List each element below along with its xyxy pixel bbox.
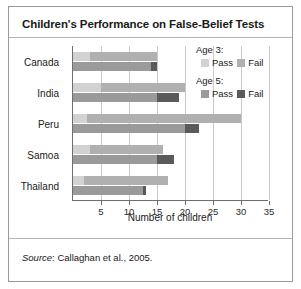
bar-age3-samoa: [73, 145, 163, 154]
legend-heading: Age 5:: [196, 75, 288, 86]
category-label-india: India: [37, 87, 59, 98]
legend-group-age3: Age 3:PassFail: [196, 44, 288, 68]
bar-segment: [73, 155, 157, 164]
bar-segment: [73, 62, 151, 71]
bar-age3-india: [73, 83, 185, 92]
legend-swatch-icon: [201, 59, 209, 67]
bar-segment: [73, 145, 90, 154]
legend-label: Pass: [212, 88, 233, 99]
bar-age5-thailand: [73, 186, 146, 195]
bar-segment: [73, 114, 87, 123]
x-axis-tick: [241, 201, 242, 205]
legend-label: Pass: [212, 57, 233, 68]
x-axis-title: Number of children: [72, 212, 268, 223]
category-label-samoa: Samoa: [27, 149, 59, 160]
x-axis-tick: [213, 201, 214, 205]
x-axis-tick: [185, 201, 186, 205]
legend-swatch-icon: [201, 90, 209, 98]
x-axis-tick: [129, 201, 130, 205]
legend-swatch-icon: [237, 59, 245, 67]
bar-segment: [73, 176, 84, 185]
legend-row: PassFail: [196, 88, 288, 99]
bar-age3-canada: [73, 52, 157, 61]
bar-segment: [157, 155, 174, 164]
category-label-canada: Canada: [24, 56, 59, 67]
x-axis-tick: [157, 201, 158, 205]
x-axis-tick: [269, 201, 270, 205]
legend-swatch-icon: [237, 90, 245, 98]
legend-label: Fail: [248, 57, 263, 68]
gridline: [185, 46, 186, 200]
legend-group-age5: Age 5:PassFail: [196, 75, 288, 99]
bar-segment: [90, 52, 157, 61]
x-axis-tick: [101, 201, 102, 205]
source-label: Source: [22, 252, 52, 263]
bar-age5-peru: [73, 124, 199, 133]
page-title: Children's Performance on False-Belief T…: [22, 18, 264, 30]
legend-item-pass: Pass: [201, 88, 233, 99]
title-divider: [9, 37, 292, 38]
chart-legend: Age 3:PassFailAge 5:PassFail: [196, 44, 288, 106]
bar-segment: [73, 124, 185, 133]
category-label-thailand: Thailand: [21, 180, 59, 191]
bar-segment: [73, 186, 143, 195]
source-caption: Source: Callaghan et al., 2005.: [22, 252, 152, 263]
legend-item-pass: Pass: [201, 57, 233, 68]
category-axis-labels: CanadaIndiaPeruSamoaThailand: [0, 46, 67, 201]
bar-segment: [157, 93, 179, 102]
bar-segment: [185, 124, 199, 133]
legend-item-fail: Fail: [237, 88, 263, 99]
source-divider: [9, 238, 292, 239]
figure-container: Children's Performance on False-Belief T…: [0, 0, 301, 289]
bar-segment: [84, 176, 168, 185]
bar-age5-india: [73, 93, 179, 102]
legend-heading: Age 3:: [196, 44, 288, 55]
bar-segment: [143, 186, 146, 195]
bar-segment: [73, 52, 90, 61]
bar-age5-canada: [73, 62, 157, 71]
bar-segment: [87, 114, 241, 123]
bar-segment: [151, 62, 157, 71]
legend-label: Fail: [248, 88, 263, 99]
source-text: : Callaghan et al., 2005.: [52, 252, 152, 263]
bar-age3-thailand: [73, 176, 168, 185]
bar-segment: [73, 93, 157, 102]
bar-segment: [101, 83, 185, 92]
bar-age5-samoa: [73, 155, 174, 164]
category-label-peru: Peru: [38, 118, 59, 129]
bar-segment: [73, 83, 101, 92]
bar-age3-peru: [73, 114, 241, 123]
legend-item-fail: Fail: [237, 57, 263, 68]
legend-row: PassFail: [196, 57, 288, 68]
bar-segment: [90, 145, 163, 154]
